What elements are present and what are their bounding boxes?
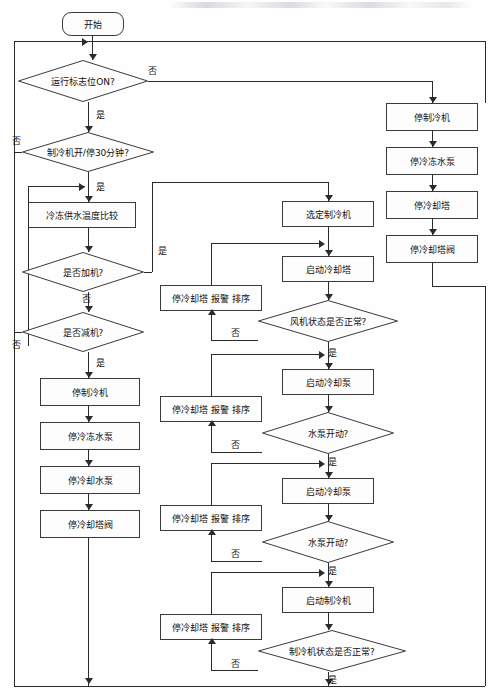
node-stop_ct_valve_r: 停冷却塔阀 [386, 235, 478, 263]
arrowhead-l3 [85, 504, 93, 510]
node-pump_ok1: 水泵开动? [262, 412, 394, 454]
edge-alarm3-return [211, 463, 323, 464]
arrowhead-alarm1-join [319, 240, 325, 248]
node-stop_chiller_r: 停制冷机 [386, 103, 478, 131]
scan-noise-artifact [170, 2, 470, 8]
edge-sub-no [14, 332, 22, 333]
node-fan_ok: 风机状态是否正常? [258, 300, 398, 342]
arrowhead-alarm2-join [319, 351, 325, 359]
edge-pump2-no-up [211, 531, 212, 561]
node-label-start_chiller: 启动制冷机 [306, 594, 351, 607]
node-alarm4: 停冷却塔 报警 排序 [160, 614, 262, 640]
node-label-temp_cmp: 冷冻供水温度比较 [46, 209, 118, 222]
edge-pump2-no [211, 561, 262, 562]
edge-fan-no [211, 340, 258, 341]
node-label-select_chiller: 选定制冷机 [306, 208, 351, 221]
edge-r-out-down [432, 263, 433, 286]
arrowhead-stopchiller-r [429, 97, 437, 103]
node-alarm3: 停冷却塔 报警 排序 [160, 505, 262, 531]
arrowhead-left-loop [79, 183, 85, 191]
node-label-alarm3: 停冷却塔 报警 排序 [172, 512, 250, 525]
node-add_machine: 是否加机? [22, 252, 144, 292]
arrowhead-alarm1-in [208, 309, 216, 315]
arrowhead-loopback-junction [82, 38, 88, 46]
node-label-stop_ct_valve_l: 停冷却塔阀 [68, 518, 113, 531]
edge-label-6: 否 [12, 338, 21, 351]
edge-label-1: 是 [96, 108, 105, 121]
edge-r-out-to-bottom [485, 286, 486, 686]
flowchart-canvas: 开始运行标志位ON?制冷机开/停30分钟?冷冻供水温度比较是否加机?是否减机?停… [0, 0, 500, 699]
edge-label-2: 否 [12, 134, 21, 147]
node-label-start: 开始 [84, 18, 102, 31]
edge-label-10: 否 [231, 438, 240, 451]
arrowhead-cwpump2 [325, 472, 333, 478]
node-start_ct: 启动冷却塔 [282, 256, 374, 282]
edge-label-8: 否 [231, 326, 240, 339]
edge-chillerok-no-up [211, 640, 212, 670]
node-label-stop_ct_valve_r: 停冷却塔阀 [410, 243, 455, 256]
arrowhead-r3 [429, 229, 437, 235]
node-stop_ct_valve_l: 停冷却塔阀 [40, 510, 140, 538]
edge-runflag-no [148, 81, 432, 82]
node-run_flag: 运行标志位ON? [18, 60, 148, 102]
node-label-alarm1: 停冷却塔 报警 排序 [172, 292, 250, 305]
node-label-stop_chw_pump_l: 停冷冻水泵 [68, 430, 113, 443]
node-label-add_machine: 是否加机? [63, 266, 104, 279]
node-chiller_ok: 制冷机状态是否正常? [258, 630, 406, 672]
arrowhead-l2 [85, 460, 93, 466]
node-pump_ok2: 水泵开动? [262, 521, 394, 563]
edge-label-4: 是 [158, 244, 167, 257]
node-label-pump_ok2: 水泵开动? [308, 536, 349, 549]
edge-alarm2-return [211, 354, 323, 355]
node-alarm2: 停冷却塔 报警 排序 [160, 396, 262, 422]
edge-add-yes [144, 272, 152, 273]
edge-left-loop-top [28, 186, 85, 187]
arrowhead-alarm4-in [208, 638, 216, 644]
arrowhead-l1 [85, 416, 93, 422]
node-select_chiller: 选定制冷机 [282, 201, 374, 227]
node-start: 开始 [62, 12, 124, 36]
edge-alarm1-return-up [211, 243, 212, 285]
node-stop_ct_r: 停冷却塔 [386, 191, 478, 219]
edge-alarm4-return [211, 572, 323, 573]
node-label-start_cw_pump1: 启动冷却泵 [306, 376, 351, 389]
arrowhead-startct [325, 250, 333, 256]
node-label-sub_machine: 是否减机? [63, 326, 104, 339]
node-stop_chw_pump_l: 停冷冻水泵 [40, 422, 140, 450]
node-stop_cw_pump_l: 停冷却水泵 [40, 466, 140, 494]
edge-alarm4-return-up [211, 572, 212, 614]
edge-pump1-no [211, 452, 262, 453]
node-start_cw_pump2: 启动冷却泵 [282, 478, 374, 504]
arrowhead-startchiller [325, 581, 333, 587]
edge-chiller30-no [14, 152, 22, 153]
node-label-chiller_30: 制冷机开/停30分钟? [47, 146, 129, 159]
edge-alarm3-return-up [211, 463, 212, 505]
node-label-start_ct: 启动冷却塔 [306, 263, 351, 276]
edge-label-7: 是 [96, 356, 105, 369]
node-label-stop_cw_pump_l: 停冷却水泵 [68, 474, 113, 487]
node-label-fan_ok: 风机状态是否正常? [290, 315, 367, 328]
edge-chillerok-no [211, 670, 258, 671]
node-label-start_cw_pump2: 启动冷却泵 [306, 485, 351, 498]
arrowhead-tempcmp [85, 196, 93, 202]
arrowhead-alarm4-join [319, 569, 325, 577]
node-label-pump_ok1: 水泵开动? [308, 427, 349, 440]
edge-label-0: 否 [148, 64, 157, 77]
node-alarm1: 停冷却塔 报警 排序 [160, 285, 262, 311]
node-label-stop_ct_r: 停冷却塔 [414, 199, 450, 212]
arrowhead-alarm2-in [208, 420, 216, 426]
node-stop_chw_pump_r: 停冷冻水泵 [386, 147, 478, 175]
arrowhead-alarm3-in [208, 529, 216, 535]
arrowhead-alarm3-join [319, 460, 325, 468]
node-label-chiller_ok: 制冷机状态是否正常? [289, 645, 375, 658]
edge-add-yes-up [152, 182, 153, 272]
edge-l-out-to-bottom [88, 538, 89, 686]
node-label-run_flag: 运行标志位ON? [51, 75, 115, 88]
node-label-alarm2: 停冷却塔 报警 排序 [172, 403, 250, 416]
edge-add-yes-top [152, 182, 328, 183]
arrowhead-stopchiller-l [85, 372, 93, 378]
edge-fan-no-up [211, 311, 212, 340]
node-chiller_30: 制冷机开/停30分钟? [22, 132, 154, 172]
edge-label-11: 是 [328, 455, 337, 468]
node-label-alarm4: 停冷却塔 报警 排序 [172, 621, 250, 634]
